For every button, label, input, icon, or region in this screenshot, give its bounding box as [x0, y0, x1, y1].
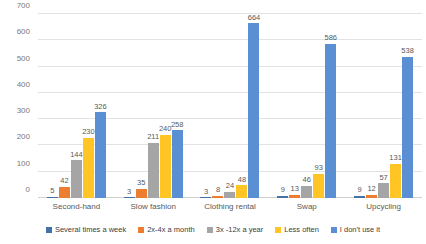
bar-value-label: 8 — [216, 186, 220, 194]
bar-group: 542144230326 — [38, 14, 115, 198]
bar-column: 42 — [59, 14, 70, 198]
y-axis-tick-label: 400 — [17, 81, 30, 89]
bar — [313, 174, 324, 198]
legend-label: I don't use it — [340, 226, 380, 234]
legend-item[interactable]: Less often — [275, 226, 319, 234]
bar — [301, 186, 312, 198]
bar-value-label: 13 — [291, 185, 299, 193]
bar-groups: 5421442303263352112402583824486649134693… — [38, 14, 422, 198]
legend-label: 2x-4x a month — [147, 226, 195, 234]
legend-swatch-icon — [331, 227, 337, 233]
bar-value-label: 42 — [60, 177, 68, 185]
bar-value-label: 5 — [50, 187, 54, 195]
bar-column: 3 — [124, 14, 135, 198]
legend-item[interactable]: Several times a week — [46, 226, 126, 234]
bar — [289, 195, 300, 198]
bar — [95, 112, 106, 198]
bar — [83, 138, 94, 198]
bar — [160, 135, 171, 198]
legend-item[interactable]: I don't use it — [331, 226, 380, 234]
bar-value-label: 48 — [238, 176, 246, 184]
bar — [325, 44, 336, 198]
y-axis-tick-label: 300 — [17, 107, 30, 115]
y-axis-tick-label: 500 — [17, 55, 30, 63]
bar-value-label: 9 — [281, 186, 285, 194]
legend-swatch-icon — [275, 227, 281, 233]
bar-value-label: 24 — [226, 182, 234, 190]
bar-value-label: 57 — [379, 174, 387, 182]
bar — [212, 196, 223, 198]
x-axis-tick-label: Swap — [268, 200, 345, 214]
bar-column: 5 — [47, 14, 58, 198]
bar-column: 131 — [390, 14, 401, 198]
bar-column: 230 — [83, 14, 94, 198]
bar-group: 91257131538 — [345, 14, 422, 198]
bar-value-label: 664 — [248, 14, 261, 22]
bar — [124, 197, 135, 198]
plot-area: 5421442303263352112402583824486649134693… — [38, 14, 422, 198]
y-axis-tick-label: 700 — [17, 2, 30, 10]
legend-swatch-icon — [207, 227, 213, 233]
bar-column: 211 — [148, 14, 159, 198]
x-axis-tick-label: Clothing rental — [192, 200, 269, 214]
bar-column: 13 — [289, 14, 300, 198]
bar-column: 12 — [366, 14, 377, 198]
bar — [402, 57, 413, 198]
bar-column: 93 — [313, 14, 324, 198]
bar-value-label: 3 — [204, 188, 208, 196]
legend-swatch-icon — [138, 227, 144, 233]
bar-column: 57 — [378, 14, 389, 198]
legend-label: 3x -12x a year — [216, 226, 264, 234]
y-axis: 0100200300400500600700 — [0, 14, 34, 198]
bar-column: 258 — [172, 14, 183, 198]
legend-item[interactable]: 3x -12x a year — [207, 226, 264, 234]
bar-value-label: 586 — [325, 34, 338, 42]
bar-column: 538 — [402, 14, 413, 198]
bar — [200, 197, 211, 198]
y-axis-tick-label: 0 — [26, 186, 30, 194]
x-axis-tick-label: Upcycling — [345, 200, 422, 214]
bar — [172, 130, 183, 198]
legend-label: Less often — [284, 226, 319, 234]
bar-column: 9 — [277, 14, 288, 198]
bar-column: 326 — [95, 14, 106, 198]
bar-value-label: 258 — [171, 121, 184, 129]
bar — [148, 143, 159, 198]
bar-value-label: 46 — [303, 176, 311, 184]
bar-column: 9 — [354, 14, 365, 198]
bar — [47, 197, 58, 198]
legend-label: Several times a week — [55, 226, 126, 234]
bar-column: 240 — [160, 14, 171, 198]
bar — [390, 164, 401, 198]
bar-group: 335211240258 — [115, 14, 192, 198]
bar-chart: 0100200300400500600700 54214423032633521… — [0, 0, 426, 244]
bar-value-label: 538 — [401, 47, 414, 55]
bar-value-label: 240 — [159, 125, 172, 133]
bar-column: 46 — [301, 14, 312, 198]
bar-value-label: 93 — [315, 164, 323, 172]
bar — [378, 183, 389, 198]
bar-value-label: 9 — [357, 186, 361, 194]
bar — [366, 195, 377, 198]
bar-column: 664 — [248, 14, 259, 198]
bar — [236, 185, 247, 198]
bar-value-label: 35 — [137, 179, 145, 187]
x-axis-category-labels: Second-handSlow fashionClothing rentalSw… — [38, 200, 422, 214]
bar-group: 9134693586 — [268, 14, 345, 198]
bar-column: 8 — [212, 14, 223, 198]
bar — [136, 189, 147, 198]
x-axis-tick-label: Second-hand — [38, 200, 115, 214]
bar-value-label: 211 — [147, 133, 159, 141]
bar-column: 35 — [136, 14, 147, 198]
bar-value-label: 131 — [389, 154, 402, 162]
y-axis-tick-label: 600 — [17, 28, 30, 36]
bar-value-label: 12 — [367, 185, 375, 193]
bar-column: 144 — [71, 14, 82, 198]
bar-value-label: 3 — [127, 188, 131, 196]
bar-column: 24 — [224, 14, 235, 198]
bar — [248, 23, 259, 198]
chart-legend: Several times a week2x-4x a month3x -12x… — [0, 223, 426, 237]
bar-column: 586 — [325, 14, 336, 198]
legend-item[interactable]: 2x-4x a month — [138, 226, 195, 234]
bar — [59, 187, 70, 198]
